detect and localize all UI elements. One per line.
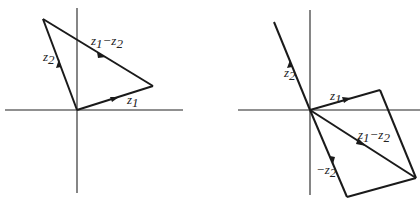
right-label-neg-z2: −z2 [316, 162, 337, 180]
left-label-z2: z2 [42, 49, 55, 67]
right-parallelogram-side-bottom [347, 178, 416, 197]
argand-diagrams: z1 z2 z1−z2 z1 z2 −z2 z1−z2 [0, 0, 420, 207]
left-label-z1-minus-z2: z1−z2 [90, 33, 123, 51]
right-diagram: z1 z2 −z2 z1−z2 [238, 10, 420, 197]
left-diagram: z1 z2 z1−z2 [5, 8, 183, 193]
left-label-z1: z1 [126, 92, 139, 110]
right-vector-z2 [274, 22, 310, 110]
right-label-z2: z2 [283, 65, 296, 83]
left-diff-arrow-icon [97, 52, 106, 58]
right-z1-arrow-icon [342, 97, 351, 103]
left-z1-arrow-icon [110, 97, 119, 102]
left-vector-z1-minus-z2 [43, 19, 153, 86]
